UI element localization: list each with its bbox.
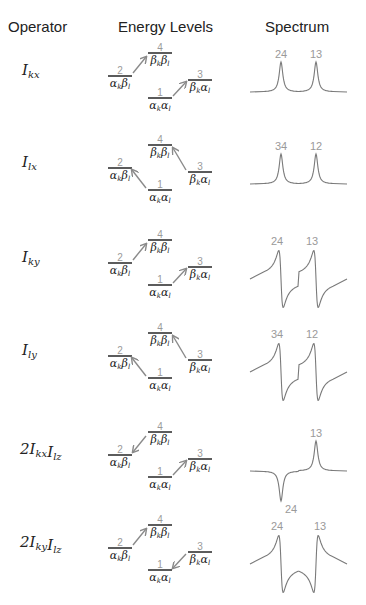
operator-label: 2IkxIlz (19, 440, 62, 462)
level-number: 1 (157, 466, 163, 477)
peak-label: 34 (275, 140, 287, 152)
transition-arrow-1-to-3 (173, 461, 186, 475)
spectrum: 2413 (250, 427, 347, 515)
state-label: αkαl (149, 571, 170, 585)
transition-arrow-3-to-1 (173, 554, 186, 568)
energy-level-2: 2αkβl (108, 65, 132, 91)
state-label: αkβl (110, 264, 130, 278)
level-number: 4 (157, 42, 163, 53)
transition-arrow-1-to-2 (132, 170, 146, 188)
transition-arrow-2-to-4 (133, 244, 146, 260)
peak-label: 34 (271, 328, 283, 340)
spectrum-trace (250, 251, 347, 308)
energy-level-4: 4βkβl (148, 229, 172, 255)
level-number: 3 (197, 541, 203, 552)
level-number: 3 (197, 448, 203, 459)
level-number: 2 (117, 65, 123, 76)
transition-arrow-3-to-4 (173, 148, 186, 170)
level-number: 1 (157, 559, 163, 570)
nmr-operator-diagram: Ikx4βkβl2αkβl3βkαl1αkαl2413Ilx4βkβl2αkβl… (0, 0, 366, 605)
spectrum: 2413 (250, 520, 347, 592)
spectrum: 3412 (250, 328, 347, 400)
level-number: 2 (117, 252, 123, 263)
peak-label: 12 (310, 140, 322, 152)
level-number: 2 (117, 345, 123, 356)
level-number: 4 (157, 421, 163, 432)
spectrum-trace (250, 62, 347, 92)
state-label: αkβl (110, 549, 130, 563)
energy-level-3: 3βkαl (188, 448, 212, 474)
state-label: αkβl (110, 169, 130, 183)
operator-label: 2IkyIlz (19, 533, 62, 555)
level-number: 2 (117, 157, 123, 168)
level-number: 2 (117, 537, 123, 548)
energy-level-2: 2αkβl (108, 537, 132, 563)
energy-level-1: 1αkαl (148, 466, 172, 492)
energy-level-4: 4βkβl (148, 322, 172, 348)
operator-label: Ikx (21, 61, 40, 80)
state-label: βkβl (149, 54, 169, 68)
energy-level-2: 2αkβl (108, 252, 132, 278)
state-label: βkβl (149, 433, 169, 447)
level-number: 3 (197, 256, 203, 267)
state-label: βkαl (189, 553, 210, 567)
state-label: αkαl (149, 478, 170, 492)
energy-level-1: 1αkαl (148, 179, 172, 205)
spectrum-trace (250, 441, 347, 501)
spectrum: 2413 (250, 235, 347, 307)
spectrum-trace (250, 344, 347, 401)
transition-arrow-4-to-2 (133, 436, 146, 452)
operator-row: 2IkxIlz4βkβl2αkβl3βkαl1αkαl2413 (19, 421, 347, 515)
energy-level-3: 3βkαl (188, 349, 212, 375)
transition-arrow-3-to-4 (173, 336, 186, 358)
level-number: 1 (157, 87, 163, 98)
operator-row: Ilx4βkβl2αkβl3βkαl1αkαl3412 (21, 134, 347, 205)
energy-level-1: 1αkαl (148, 274, 172, 300)
state-label: αkβl (110, 456, 130, 470)
energy-level-1: 1αkαl (148, 367, 172, 393)
peak-label: 13 (314, 520, 326, 532)
operator-row: 2IkyIlz4βkβl2αkβl3βkαl1αkαl2413 (19, 514, 347, 592)
transition-arrow-2-to-4 (133, 57, 146, 73)
level-number: 1 (157, 367, 163, 378)
spectrum-trace (250, 154, 347, 184)
state-label: αkαl (149, 286, 170, 300)
state-label: αkβl (110, 77, 130, 91)
state-label: βkαl (189, 81, 210, 95)
state-label: βkαl (189, 173, 210, 187)
energy-level-1: 1αkαl (148, 87, 172, 113)
level-number: 3 (197, 349, 203, 360)
peak-label: 13 (310, 427, 322, 439)
spectrum-trace (250, 536, 347, 593)
level-number: 3 (197, 69, 203, 80)
peak-label: 24 (271, 235, 283, 247)
spectrum: 3412 (250, 140, 347, 184)
level-number: 1 (157, 179, 163, 190)
state-label: βkβl (149, 334, 169, 348)
peak-label: 24 (275, 48, 287, 60)
level-number: 2 (117, 444, 123, 455)
spectrum: 2413 (250, 48, 347, 92)
level-number: 4 (157, 514, 163, 525)
energy-level-4: 4βkβl (148, 421, 172, 447)
energy-level-4: 4βkβl (148, 134, 172, 160)
level-number: 3 (197, 161, 203, 172)
peak-label: 13 (310, 48, 322, 60)
state-label: βkαl (189, 361, 210, 375)
state-label: βkαl (189, 460, 210, 474)
energy-level-3: 3βkαl (188, 541, 212, 567)
energy-level-2: 2αkβl (108, 157, 132, 183)
state-label: αkαl (149, 191, 170, 205)
level-number: 4 (157, 134, 163, 145)
energy-level-3: 3βkαl (188, 69, 212, 95)
peak-label: 13 (306, 235, 318, 247)
transition-arrow-1-to-3 (173, 82, 186, 96)
state-label: βkβl (149, 526, 169, 540)
energy-level-2: 2αkβl (108, 345, 132, 371)
energy-level-3: 3βkαl (188, 161, 212, 187)
operator-label: Ilx (21, 153, 37, 172)
operator-row: Ikx4βkβl2αkβl3βkαl1αkαl2413 (21, 42, 347, 113)
level-number: 1 (157, 274, 163, 285)
energy-level-3: 3βkαl (188, 256, 212, 282)
transition-arrow-1-to-2 (132, 358, 146, 376)
